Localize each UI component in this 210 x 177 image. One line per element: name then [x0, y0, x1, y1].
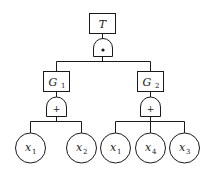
event-x1-b-sub: 1 — [117, 148, 121, 156]
event-x1-b-label: x — [110, 141, 117, 154]
and-dot-icon — [101, 48, 104, 51]
event-x1-a-label: x — [25, 141, 32, 154]
g2-sub: 2 — [155, 82, 159, 90]
event-x1-a-sub: 1 — [32, 148, 36, 156]
or-plus-g2: + — [147, 104, 155, 114]
event-x3-sub: 3 — [186, 148, 190, 156]
event-x4-sub: 4 — [152, 148, 157, 156]
event-x4-label: x — [145, 141, 152, 154]
event-x3-label: x — [179, 141, 186, 154]
g1-sub: 1 — [61, 82, 65, 90]
or-plus-g1: + — [53, 104, 61, 114]
g1-label: G — [49, 76, 58, 89]
top-event-label: T — [99, 18, 108, 31]
fault-tree-diagram: + + T G 1 G 2 x 1 x 2 x 1 x 4 x 3 — [0, 0, 210, 177]
g2-label: G — [143, 76, 152, 89]
and-gate-icon — [94, 39, 113, 57]
event-x2-label: x — [76, 141, 83, 154]
event-x2-sub: 2 — [83, 148, 87, 156]
